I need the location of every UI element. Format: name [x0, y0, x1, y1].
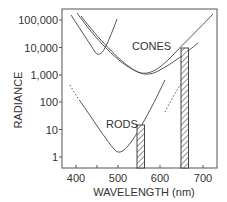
y-tick-label: 100,000: [18, 14, 58, 26]
x-tick-labels: 400 500 600 700: [67, 172, 212, 184]
cones-label: CONES: [132, 40, 171, 52]
rods-label: RODS: [106, 118, 138, 130]
y-tick-label: 10: [46, 124, 58, 136]
y-tick-label: 10,000: [24, 42, 58, 54]
x-tick-label: 500: [109, 172, 127, 184]
y-tick-labels: 100,000 10,000 1,000 100 10 1: [18, 14, 58, 163]
x-axis-title: WAVELENGTH (nm): [93, 186, 194, 198]
y-tick-label: 100: [40, 96, 58, 108]
rod-stimulus-bar: [137, 125, 145, 168]
rod-curve: [80, 80, 165, 152]
y-axis-title: RADIANCE: [12, 72, 24, 129]
cone-stimulus-bar: [181, 48, 189, 168]
x-tick-label: 400: [67, 172, 85, 184]
y-tick-label: 1: [52, 151, 58, 163]
rod-curve-dotted: [70, 85, 80, 101]
x-tick-label: 600: [151, 172, 169, 184]
radiance-chart: 100,000 10,000 1,000 100 10 1 400 500 60…: [0, 0, 227, 202]
y-tick-label: 1,000: [30, 69, 58, 81]
x-tick-label: 700: [194, 172, 212, 184]
